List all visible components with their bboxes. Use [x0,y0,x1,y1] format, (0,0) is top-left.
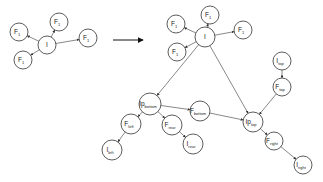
node-f1c: F1 [234,21,252,39]
edge-I-Iptop [210,46,248,114]
node-i: I [195,27,215,47]
node-f1d: F1 [14,51,32,69]
node-ileft: Ileft [102,140,122,160]
node-fleft: Fleft [121,114,141,134]
left-graph: IF1F1F1F1 [10,13,97,69]
edge-I-F1a [27,36,39,41]
edge-Fbottom-Iptop [210,113,243,120]
edge-Fright-Iright [281,147,296,160]
node-f1c: F1 [79,29,97,47]
edge-Ipbottom-Frear [158,112,165,119]
node-ipbottom: Ipbottom [139,93,161,115]
edge-I-F1c [56,40,79,44]
node-ftop: Ftop [273,78,291,96]
node-irear: Irear [183,134,203,154]
node-fbottom: Fbottom [190,101,210,121]
node-itop: Itop [273,52,291,70]
edge-Ipbottom-Fleft [138,112,143,117]
node-f1b: F1 [201,6,219,24]
edge-I-F1a [184,28,196,33]
node-fright: Fright [265,132,283,150]
edge-Frear-Irear [179,132,185,138]
edge-Ipbottom-Fbottom [161,106,190,110]
edge-Ftop-Iptop [259,94,276,114]
node-frear: Frear [162,115,182,135]
edge-Iptop-Fright [260,129,267,135]
right-graph: IF1F1F1F1IpbottomFbottomFleftFrearIleftI… [102,6,312,174]
node-iptop: Iptop [243,112,263,132]
node-f1a: F1 [10,23,28,41]
edge-I-F1c [215,32,234,36]
node-f1a: F1 [167,15,185,33]
node-iright: Iright [294,156,312,174]
node-f1d: F1 [168,43,186,61]
diagram-canvas: IF1F1F1F1 IF1F1F1F1IpbottomFbottomFleftF… [0,0,323,182]
edge-I-F1b [207,24,208,27]
node-label: I [46,41,48,48]
edge-I-F1b [51,30,55,37]
node-i: I [38,36,56,54]
edge-Fleft-Ileft [118,132,125,142]
edge-I-F1d [185,42,196,48]
node-label: I [204,33,206,40]
edge-I-F1d [31,50,40,55]
node-f1b: F1 [50,13,68,31]
